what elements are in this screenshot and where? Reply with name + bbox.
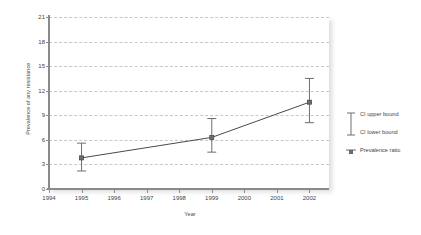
x-tick-label: 2002: [303, 195, 316, 201]
plot-area: 036912151821 199419951996199719981999200…: [49, 17, 329, 189]
legend-label-ci-lower: CI lower bound: [360, 130, 398, 136]
y-tick-label: 3: [42, 161, 45, 167]
x-tick-label: 1998: [173, 195, 186, 201]
chart-legend: CI upper bound CI lower bound Prevalence…: [343, 108, 421, 162]
data-point-marker: [210, 135, 214, 139]
x-tick-label: 2001: [270, 195, 283, 201]
x-tick-label: 1994: [42, 195, 55, 201]
legend-item-ci-upper: CI upper bound: [343, 108, 421, 126]
y-tick-label: 18: [38, 39, 45, 45]
legend-label-ci-upper: CI upper bound: [360, 112, 399, 118]
y-tick-label: 12: [38, 88, 45, 94]
x-axis-title: Year: [40, 212, 340, 218]
y-axis-title: Prevalence of any resistance: [26, 24, 31, 174]
x-tick-label: 1996: [107, 195, 120, 201]
y-tick-label: 21: [38, 14, 45, 20]
y-tick-label: 6: [42, 137, 45, 143]
prevalence-ratio-line: [82, 102, 310, 158]
x-tick-label: 1999: [205, 195, 218, 201]
y-tick-label: 15: [38, 63, 45, 69]
x-tick-label: 1995: [75, 195, 88, 201]
legend-item-prevalence-ratio: Prevalence ratio: [343, 144, 421, 162]
x-tick-label: 1997: [140, 195, 153, 201]
legend-item-ci-lower: CI lower bound: [343, 126, 421, 144]
data-point-marker: [307, 100, 311, 104]
data-series-layer: [49, 17, 329, 189]
square-marker-icon: [343, 144, 359, 162]
y-tick-label: 9: [42, 112, 45, 118]
data-point-marker: [80, 156, 84, 160]
x-tick-label: 2000: [238, 195, 251, 201]
legend-label-prevalence-ratio: Prevalence ratio: [360, 148, 400, 154]
error-bar-lower-cap-icon: [343, 126, 359, 144]
data-point-group: [207, 119, 216, 153]
error-bar-upper-cap-icon: [343, 108, 359, 126]
chart-figure: Prevalence of any resistance 03691215182…: [0, 0, 421, 235]
y-tick-label: 0: [42, 186, 45, 192]
data-point-group: [305, 78, 314, 122]
